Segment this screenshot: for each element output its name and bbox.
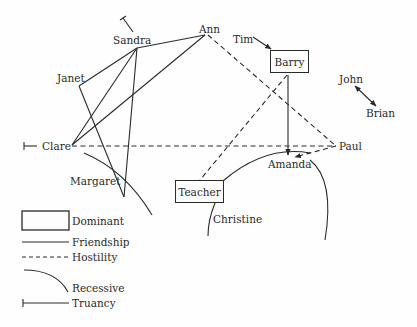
node-janet: Janet [57,73,85,84]
legend-friendship-label: Friendship [72,237,130,248]
node-teacher-dominant: Teacher [175,180,224,203]
legend-dominant-label: Dominant [72,216,124,227]
truancy-sandra [123,18,133,32]
edge-sandra-clare [72,48,137,145]
sociogram-diagram: Sandra Ann Tim Barry Janet John Brian Cl… [0,0,417,327]
node-barry-label: Barry [275,56,305,68]
node-tim: Tim [233,34,253,45]
node-margaret: Margaret [70,176,120,187]
node-ann: Ann [199,24,220,35]
node-sandra: Sandra [113,35,151,46]
node-clare: Clare [42,141,71,152]
node-barry-dominant: Barry [270,50,309,73]
edge-ann-clare [72,35,205,145]
node-paul: Paul [339,141,362,152]
recessive-arc-amanda-right [310,160,328,240]
edge-john-brian [355,86,376,106]
legend-graphics [22,211,69,307]
node-brian: Brian [366,108,395,119]
legend-hostility-label: Hostility [72,252,117,263]
node-teacher-label: Teacher [178,186,221,198]
legend-dominant-swatch [22,211,69,230]
diagram-lines [0,0,417,327]
node-christine: Christine [213,214,262,225]
edge-sandra-margaret [124,48,137,197]
edge-tim-barry [253,37,271,49]
node-john: John [339,74,363,85]
legend-recessive-label: Recessive [72,283,125,294]
edge-sandra-janet [79,48,137,86]
node-amanda: Amanda [268,159,312,170]
legend-recessive-swatch [24,270,68,292]
legend-truancy-label: Truancy [72,298,116,309]
